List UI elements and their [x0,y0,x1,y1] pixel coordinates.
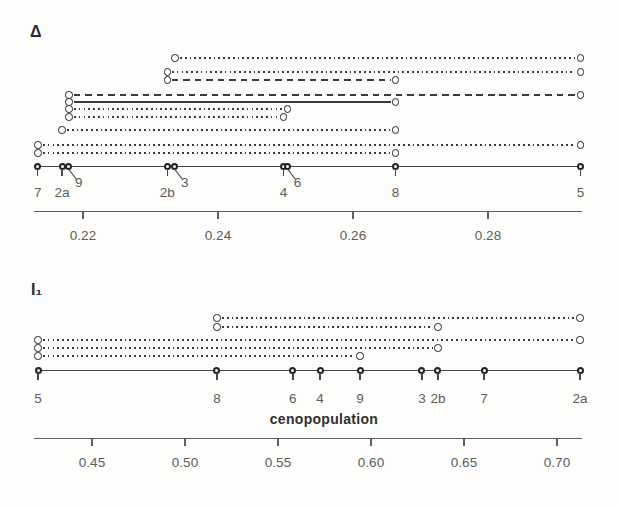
p2-interval-8-2b-start-marker [213,323,221,331]
panel-i1-plot: 5864932b72a0.450.500.550.600.650.70 [0,0,619,506]
p2-point-6-tick [292,373,293,380]
p2-axis-line [34,438,582,439]
p2-point-8-tick [216,373,217,380]
p2-interval-8-2a-line [222,317,575,319]
p2-axis-tick-label-0.55: 0.55 [265,456,291,470]
p2-point-9-tick [359,373,360,380]
p2-interval-5-2b-end-marker [434,344,442,352]
p2-axis-tick-0.70 [556,438,557,446]
p2-point-7-label: 7 [480,392,488,406]
p2-interval-8-2b-end-marker [434,323,442,331]
p2-axis-tick-label-0.60: 0.60 [358,456,384,470]
p2-point-6-label: 6 [289,392,297,406]
p2-point-9-label: 9 [356,392,364,406]
p2-point-4-tick [319,373,320,380]
p2-point-4-label: 4 [316,392,324,406]
p2-point-2b-label: 2b [430,392,445,406]
p2-axis-tick-0.60 [370,438,371,446]
p2-point-8-label: 8 [213,392,221,406]
p2-axis-tick-0.55 [277,438,278,446]
p2-point-5-tick [37,373,38,380]
p2-axis-tick-label-0.50: 0.50 [172,456,198,470]
p2-interval-8-2b-line [222,326,433,328]
p2-axis-tick-label-0.70: 0.70 [544,456,570,470]
p2-interval-5-2b-line [43,347,433,349]
p2-main-line [38,370,580,372]
p2-point-2a-label: 2a [573,392,588,406]
p2-axis-tick-0.45 [91,438,92,446]
p2-point-2b-tick [437,373,438,380]
p2-axis-tick-0.50 [184,438,185,446]
p2-point-5-label: 5 [34,392,42,406]
p2-interval-5-9-end-marker [356,352,364,360]
p2-interval-8-2a-end-marker [576,314,584,322]
x-axis-title: cenopopulation [244,411,404,427]
p2-interval-5-9-line [43,355,355,357]
p2-point-3-label: 3 [418,392,426,406]
p2-axis-tick-label-0.45: 0.45 [79,456,105,470]
p2-point-2a-tick [579,373,580,380]
p2-interval-5-2a-end-marker [576,336,584,344]
p2-interval-8-2a-start-marker [213,314,221,322]
p2-axis-tick-0.65 [463,438,464,446]
p2-interval-5-9-start-marker [34,352,42,360]
p2-interval-5-2a-start-marker [34,336,42,344]
p2-point-7-tick [483,373,484,380]
p2-axis-tick-label-0.65: 0.65 [451,456,477,470]
scanned-figure: Δ 72a92b346850.220.240.260.28 I₁ 5864932… [0,0,619,506]
p2-interval-5-2b-start-marker [34,344,42,352]
p2-point-3-tick [421,373,422,380]
p2-interval-5-2a-line [43,339,575,341]
